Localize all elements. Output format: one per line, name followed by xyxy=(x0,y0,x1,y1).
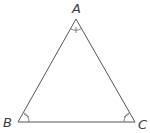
vertex-label-b: B xyxy=(3,115,12,130)
triangle-diagram: A B C xyxy=(0,0,150,133)
vertex-label-a: A xyxy=(71,1,81,16)
triangle-abc xyxy=(18,19,135,122)
vertex-label-c: C xyxy=(138,117,148,132)
